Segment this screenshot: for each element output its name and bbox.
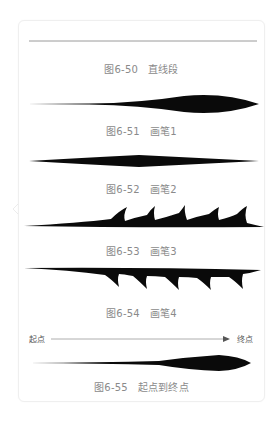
brush-2-stroke: [19, 149, 264, 173]
figure-card: 图6-50直线段 图6-51画笔1 图6-52画笔2 图6-53画笔3 图6-5…: [18, 20, 265, 402]
caption-6-54: 图6-54画笔4: [19, 305, 264, 320]
figure-number: 图6-55: [94, 382, 128, 393]
start-label: 起点: [29, 333, 45, 344]
caption-6-55: 图6-55起点到终点: [19, 379, 264, 394]
caption-6-51: 图6-51画笔1: [19, 123, 264, 138]
arrow-head-icon: [223, 336, 230, 342]
figure-number: 图6-53: [106, 246, 140, 257]
figure-number: 图6-51: [106, 126, 140, 137]
caption-6-53: 图6-53画笔3: [19, 243, 264, 258]
brush-4-stroke: [19, 265, 264, 295]
figure-number: 图6-50: [104, 64, 138, 75]
caption-6-50: 图6-50直线段: [19, 61, 264, 76]
figure-number: 图6-54: [106, 308, 140, 319]
figure-title: 直线段: [148, 64, 179, 75]
figure-title: 画笔1: [150, 126, 177, 137]
caption-6-52: 图6-52画笔2: [19, 181, 264, 196]
figure-title: 画笔2: [150, 184, 177, 195]
figure-title: 画笔3: [150, 246, 177, 257]
start-to-end-stroke: [19, 351, 264, 375]
figure-title: 起点到终点: [138, 382, 189, 393]
straight-line-figure: [19, 39, 264, 43]
figure-title: 画笔4: [150, 308, 177, 319]
direction-arrow: [51, 334, 231, 344]
brush-3-stroke: [19, 201, 264, 231]
brush-1-stroke: [19, 89, 264, 119]
end-label: 终点: [237, 333, 253, 344]
figure-number: 图6-52: [106, 184, 140, 195]
